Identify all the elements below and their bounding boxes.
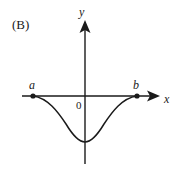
- point-a-label: a: [29, 78, 35, 92]
- point-a-marker: [30, 93, 35, 98]
- panel-label: (B): [12, 17, 29, 32]
- y-axis-label: y: [78, 5, 85, 19]
- point-b-marker: [134, 93, 139, 98]
- x-axis-label: x: [163, 92, 170, 106]
- point-b-label: b: [133, 78, 139, 92]
- origin-label: 0: [76, 99, 82, 111]
- graph-figure: (B) y x 0 a b: [0, 0, 178, 174]
